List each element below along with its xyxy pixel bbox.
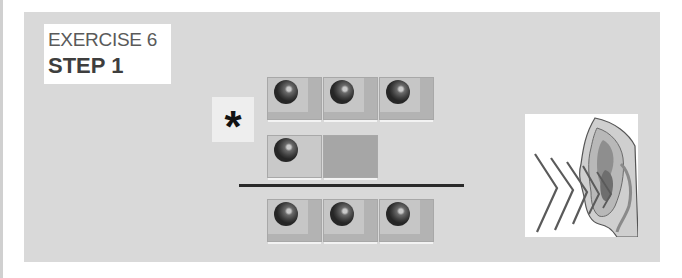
step-title: STEP 1 [48, 53, 123, 79]
ball-icon [330, 202, 354, 226]
ear-illustration [525, 114, 638, 237]
exercise-label-box: EXERCISE 6 STEP 1 [44, 24, 171, 84]
asterisk-multiply-icon: * [224, 105, 241, 149]
exercise-title: EXERCISE 6 [48, 29, 157, 51]
ear-listening-icon [525, 114, 638, 237]
tile-middle-2-empty [323, 135, 378, 178]
equals-rule [239, 184, 464, 187]
tile-result-1 [267, 199, 322, 242]
tile-middle-1 [267, 135, 322, 178]
ball-icon [274, 80, 298, 104]
ball-icon [330, 80, 354, 104]
ball-icon [386, 80, 410, 104]
tile-top-3 [379, 77, 434, 120]
tile-result-2 [323, 199, 378, 242]
page-edge [0, 0, 3, 278]
ball-icon [386, 202, 410, 226]
tile-top-1 [267, 77, 322, 120]
tile-top-2 [323, 77, 378, 120]
tile-result-3 [379, 199, 434, 242]
ball-icon [274, 138, 298, 162]
operator-box: * [212, 97, 254, 142]
ball-icon [274, 202, 298, 226]
